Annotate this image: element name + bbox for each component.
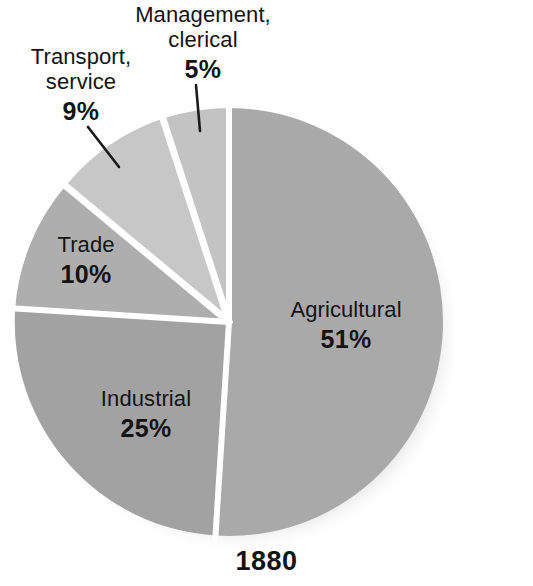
- slice-label-trade: Trade 10%: [16, 232, 156, 289]
- pie-chart-figure: Management, clerical 5% Transport, servi…: [0, 0, 533, 586]
- slice-value-industrial: 25%: [66, 414, 226, 443]
- slice-label-transport-service-line1: Transport,: [6, 44, 156, 69]
- slice-label-agricultural: Agricultural 51%: [262, 297, 430, 354]
- slice-label-management-clerical-line1: Management,: [108, 2, 298, 27]
- slice-value-trade: 10%: [16, 260, 156, 289]
- slice-label-industrial-text: Industrial: [66, 386, 226, 411]
- slice-label-agricultural-text: Agricultural: [262, 297, 430, 322]
- slice-label-trade-text: Trade: [16, 232, 156, 257]
- slice-label-transport-service: Transport, service 9%: [6, 44, 156, 126]
- slice-value-transport-service: 9%: [6, 97, 156, 126]
- chart-caption-year: 1880: [0, 546, 533, 577]
- slice-value-agricultural: 51%: [262, 325, 430, 354]
- slice-label-industrial: Industrial 25%: [66, 386, 226, 443]
- slice-label-transport-service-line2: service: [6, 69, 156, 94]
